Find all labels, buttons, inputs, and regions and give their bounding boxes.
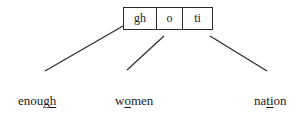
connector-gh-enough [45,26,123,71]
word-women: women [115,94,153,108]
word-suffix: men [131,93,153,108]
word-suffix: on [274,93,287,108]
grapheme-label: gh [134,11,146,26]
grapheme-cell-o: o [156,8,182,29]
word-enough: enough [18,94,56,108]
word-underlined-part: gh [43,93,56,108]
grapheme-cell-gh: gh [124,8,156,29]
word-prefix: enou [18,93,43,108]
word-prefix: na [254,93,266,108]
grapheme-label: ti [194,11,201,26]
word-prefix: w [115,93,124,108]
grapheme-box: gh o ti [123,7,213,30]
word-nation: nation [254,94,287,108]
grapheme-cell-ti: ti [182,8,212,29]
grapheme-label: o [167,11,173,26]
word-underlined-part: ti [266,93,273,108]
connector-ti-nation [210,36,267,71]
ghoti-spelling-diagram: gh o ti enough women nation [0,0,299,120]
connector-o-women [127,36,164,70]
